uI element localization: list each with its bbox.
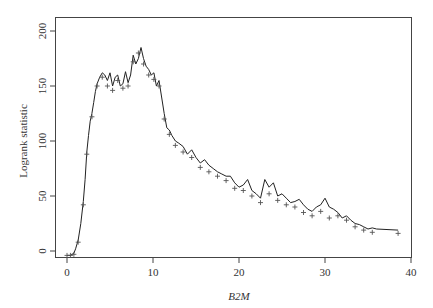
plus-marker-icon (344, 218, 349, 223)
plus-marker-icon (370, 230, 375, 235)
y-tick-label: 0 (36, 248, 48, 254)
plus-marker-icon (95, 84, 100, 89)
plus-marker-icon (198, 165, 203, 170)
plus-marker-icon (327, 216, 332, 221)
x-tick-label: 10 (148, 266, 160, 278)
plus-marker-icon (241, 188, 246, 193)
plus-marker-icon (215, 174, 220, 179)
plot-area-border (56, 18, 412, 258)
censored-markers (65, 51, 401, 258)
plus-marker-icon (120, 86, 125, 91)
plus-marker-icon (232, 186, 237, 191)
plus-marker-icon (284, 202, 289, 207)
x-axis-title: B2M (228, 290, 250, 302)
x-tick-label: 20 (234, 266, 246, 278)
x-tick-label: 40 (406, 266, 418, 278)
y-axis-title: Logrank statistic (17, 104, 29, 178)
logrank-line (67, 48, 398, 256)
plus-marker-icon (310, 213, 315, 218)
plus-marker-icon (76, 240, 81, 245)
plot-frame (56, 18, 412, 258)
plus-marker-icon (267, 191, 272, 196)
y-tick-label: 100 (36, 132, 48, 149)
plus-marker-icon (361, 228, 366, 233)
plus-marker-icon (301, 210, 306, 215)
plus-marker-icon (249, 194, 254, 199)
plus-marker-icon (318, 209, 323, 214)
x-axis: 010203040 (64, 258, 417, 279)
y-tick-label: 200 (36, 22, 48, 39)
plus-marker-icon (105, 84, 110, 89)
logrank-path (67, 48, 398, 256)
plus-marker-icon (189, 155, 194, 160)
x-tick-label: 30 (320, 266, 332, 278)
plus-marker-icon (110, 88, 115, 93)
plus-marker-icon (396, 231, 401, 236)
y-axis: 050100150200 (36, 22, 56, 254)
plus-marker-icon (173, 143, 178, 148)
plus-marker-icon (81, 202, 86, 207)
plus-marker-icon (353, 224, 358, 229)
plus-marker-icon (126, 84, 131, 89)
plus-marker-icon (206, 169, 211, 174)
plus-marker-icon (224, 178, 229, 183)
y-tick-label: 50 (36, 190, 48, 202)
x-tick-label: 0 (64, 266, 70, 278)
plus-marker-icon (275, 198, 280, 203)
plus-marker-icon (89, 114, 94, 119)
plus-marker-icon (84, 152, 89, 157)
plus-marker-icon (258, 200, 263, 205)
logrank-chart: 050100150200 010203040 B2M Logrank stati… (0, 0, 433, 308)
plus-marker-icon (292, 205, 297, 210)
plus-marker-icon (71, 252, 76, 257)
y-tick-label: 150 (36, 77, 48, 94)
